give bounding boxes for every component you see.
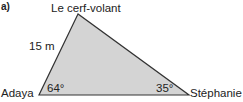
side-length-label: 15 m bbox=[29, 41, 55, 53]
angle-left-label: 64° bbox=[47, 83, 64, 95]
vertex-top-label: Le cerf-volant bbox=[51, 3, 121, 15]
vertex-left-label: Adaya bbox=[1, 88, 34, 100]
vertex-right-label: Stéphanie bbox=[190, 88, 242, 100]
angle-right-label: 35° bbox=[156, 83, 173, 95]
